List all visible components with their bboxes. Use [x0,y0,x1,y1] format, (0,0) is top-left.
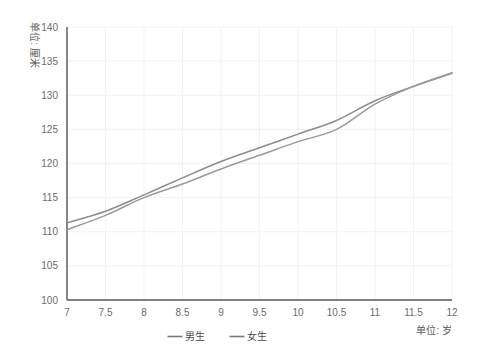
y-tick-label: 115 [42,192,58,203]
y-axis-tick-labels: 100105110115120125130135140 [41,22,58,306]
x-tick-label: 8 [141,307,147,318]
y-tick-label: 105 [41,260,58,271]
legend-item[interactable]: 男生 [168,330,205,342]
x-tick-label: 12 [446,307,458,318]
y-tick-label: 135 [41,56,58,67]
y-tick-label: 130 [41,90,58,101]
y-tick-label: 110 [42,226,58,237]
growth-chart: 100105110115120125130135140 77.588.599.5… [0,0,482,360]
x-axis-unit-label: 单位: 岁 [416,324,452,336]
x-tick-label: 10.5 [327,307,347,318]
chart-legend: 男生女生 [168,330,267,342]
x-tick-label: 8.5 [176,307,190,318]
grid-lines [67,27,452,300]
x-tick-label: 10 [292,307,304,318]
chart-canvas: 100105110115120125130135140 77.588.599.5… [0,0,482,360]
y-tick-label: 120 [41,158,58,169]
legend-label: 女生 [247,330,267,342]
y-axis-unit-text: 单位: 厘米 [29,22,41,68]
x-tick-label: 11.5 [404,307,423,318]
y-axis-unit-label: 单位: 厘米 [29,22,41,68]
x-tick-label: 9.5 [253,307,267,318]
legend-item[interactable]: 女生 [230,330,267,342]
legend-label: 男生 [185,330,205,342]
x-axis-unit-text: 单位: 岁 [416,324,452,336]
y-tick-label: 125 [41,124,58,135]
x-tick-label: 7.5 [99,307,113,318]
x-tick-label: 9 [218,307,224,318]
x-tick-label: 7 [64,307,70,318]
x-tick-label: 11 [370,307,381,318]
x-axis-tick-labels: 77.588.599.51010.51111.512 [64,307,458,318]
y-tick-label: 140 [41,22,58,33]
y-tick-label: 100 [41,295,58,306]
